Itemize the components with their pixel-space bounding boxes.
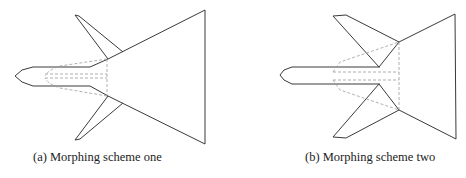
panel-b-delta-outline xyxy=(399,14,456,139)
panel-a-hidden-lower-curve xyxy=(45,78,107,96)
panel-a-upper-wing xyxy=(75,15,123,59)
panel-a-fuselage-and-delta-outline xyxy=(15,10,205,144)
panel-b-fuselage-outline xyxy=(280,67,380,84)
panel-b-upper-wing xyxy=(333,15,399,67)
panel-a-drawing xyxy=(15,10,205,144)
panel-b-drawing xyxy=(280,14,456,139)
panel-a-lower-wing xyxy=(75,96,123,140)
panel-a-caption: (a) Morphing scheme one xyxy=(33,150,162,165)
panel-b-caption: (b) Morphing scheme two xyxy=(305,150,435,165)
panel-b-lower-wing xyxy=(333,84,399,138)
